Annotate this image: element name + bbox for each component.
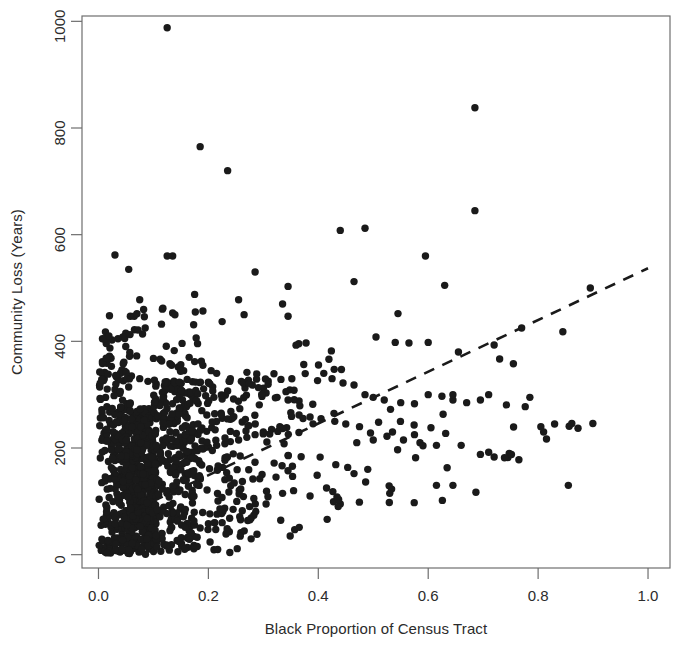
- data-point: [197, 379, 204, 386]
- data-point: [203, 411, 210, 418]
- data-point: [328, 375, 335, 382]
- data-point: [117, 452, 124, 459]
- data-point: [200, 385, 207, 392]
- data-point: [198, 358, 205, 365]
- data-point: [189, 499, 196, 506]
- data-point: [128, 423, 135, 430]
- data-point: [306, 492, 313, 499]
- data-point: [172, 457, 179, 464]
- data-point: [333, 493, 340, 500]
- data-point: [226, 378, 233, 385]
- data-point: [120, 359, 127, 366]
- data-point: [168, 435, 175, 442]
- data-point: [236, 452, 243, 459]
- data-point: [242, 416, 249, 423]
- data-point: [334, 503, 341, 510]
- data-point: [133, 446, 140, 453]
- data-point: [284, 313, 291, 320]
- data-point: [237, 485, 244, 492]
- data-point: [503, 401, 510, 408]
- data-point: [224, 387, 231, 394]
- data-point: [386, 499, 393, 506]
- data-point: [433, 442, 440, 449]
- data-point: [125, 266, 132, 273]
- data-point: [177, 367, 184, 374]
- data-point: [100, 414, 107, 421]
- data-point: [441, 282, 448, 289]
- data-point: [125, 383, 132, 390]
- data-point: [176, 378, 183, 385]
- data-point: [383, 433, 390, 440]
- data-point: [309, 401, 316, 408]
- data-point: [152, 460, 159, 467]
- data-point: [174, 548, 181, 555]
- data-point: [133, 310, 140, 317]
- data-point: [543, 435, 550, 442]
- data-point: [159, 395, 166, 402]
- data-point: [211, 519, 218, 526]
- data-point: [230, 395, 237, 402]
- data-point: [240, 394, 247, 401]
- data-point: [284, 283, 291, 290]
- data-point: [111, 476, 118, 483]
- data-point: [249, 475, 256, 482]
- data-point: [191, 291, 198, 298]
- y-tick-label: 800: [51, 120, 68, 145]
- data-point: [105, 494, 112, 501]
- data-point: [229, 506, 236, 513]
- data-point: [218, 411, 225, 418]
- data-point: [443, 464, 450, 471]
- data-point: [449, 391, 456, 398]
- data-point: [153, 543, 160, 550]
- data-point: [190, 492, 197, 499]
- data-point: [199, 509, 206, 516]
- x-tick-label: 1.0: [638, 587, 659, 604]
- data-point: [115, 499, 122, 506]
- data-point: [439, 411, 446, 418]
- data-point: [208, 418, 215, 425]
- data-point: [279, 300, 286, 307]
- data-point: [189, 427, 196, 434]
- data-point: [175, 538, 182, 545]
- data-point: [510, 360, 517, 367]
- data-point: [206, 538, 213, 545]
- data-point: [165, 450, 172, 457]
- data-point: [191, 358, 198, 365]
- data-point: [119, 396, 126, 403]
- scatter-plot-figure: 02004006008001000 0.00.20.40.60.81.0 Bla…: [0, 0, 680, 646]
- x-axis-title: Black Proportion of Census Tract: [265, 620, 488, 637]
- data-point: [439, 497, 446, 504]
- data-point: [107, 446, 114, 453]
- data-point: [150, 355, 157, 362]
- data-point: [250, 495, 257, 502]
- data-point: [286, 532, 293, 539]
- data-point: [204, 400, 211, 407]
- data-point: [394, 310, 401, 317]
- data-point: [178, 340, 185, 347]
- data-point: [270, 370, 277, 377]
- data-point: [151, 377, 158, 384]
- data-point: [127, 505, 134, 512]
- data-point: [353, 439, 360, 446]
- data-point: [212, 526, 219, 533]
- data-point: [292, 341, 299, 348]
- dense-cluster-layer: [95, 305, 596, 558]
- data-point: [110, 392, 117, 399]
- data-point: [344, 464, 351, 471]
- data-point: [214, 546, 221, 553]
- data-point: [137, 463, 144, 470]
- data-point: [126, 408, 133, 415]
- data-point: [142, 481, 149, 488]
- data-point: [442, 430, 449, 437]
- data-point: [223, 453, 230, 460]
- data-point: [496, 355, 503, 362]
- data-point: [184, 448, 191, 455]
- data-point: [114, 445, 121, 452]
- data-point: [119, 478, 126, 485]
- data-point: [325, 356, 332, 363]
- data-point: [179, 424, 186, 431]
- data-point: [350, 381, 357, 388]
- x-tick-label: 0.4: [308, 587, 329, 604]
- data-point: [397, 399, 404, 406]
- data-point: [251, 268, 258, 275]
